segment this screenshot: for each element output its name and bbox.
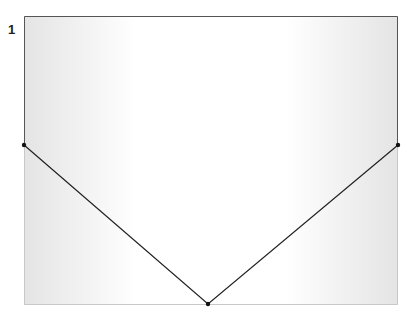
v-diagram	[0, 0, 412, 321]
vertex-left[interactable]	[22, 143, 26, 147]
vertex-right[interactable]	[396, 143, 400, 147]
vertex-bottom[interactable]	[206, 302, 210, 306]
frame-background	[24, 16, 398, 304]
